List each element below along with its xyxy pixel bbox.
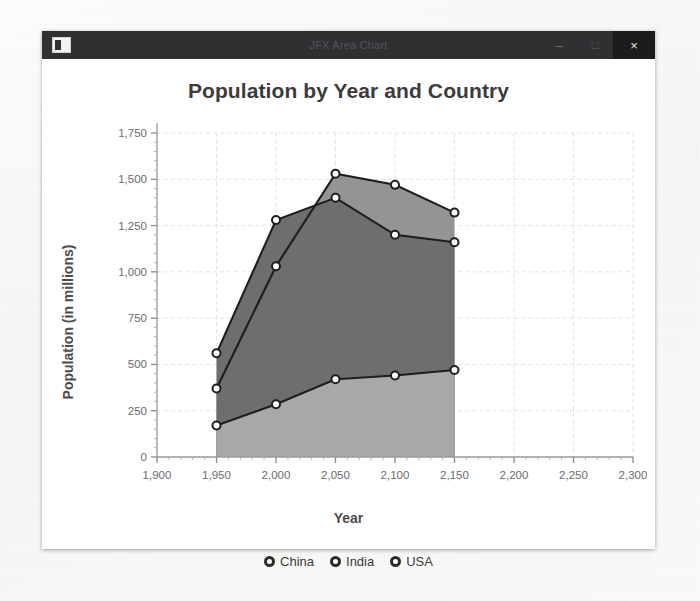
x-tick-label: 2,050 [321,469,350,481]
legend-item-usa[interactable]: USA [390,554,433,569]
data-point-india[interactable] [272,262,280,270]
data-point-china[interactable] [213,349,221,357]
y-tick-label: 750 [128,312,147,324]
x-tick-label: 2,000 [262,469,291,481]
data-point-usa[interactable] [272,400,280,408]
data-point-china[interactable] [451,238,459,246]
maximize-button[interactable]: □ [577,31,613,59]
data-point-india[interactable] [451,209,459,217]
app-window-icon [52,37,71,53]
data-point-usa[interactable] [213,422,221,430]
close-button[interactable]: × [613,31,655,59]
window-title-bar[interactable]: JFX Area Chart – □ × [42,31,655,59]
y-tick-label: 1,250 [118,220,147,232]
y-axis-title: Population (in millions) [60,245,76,400]
legend-marker-icon [330,556,341,567]
x-tick-label: 2,150 [440,469,469,481]
chart-legend: ChinaIndiaUSA [50,554,647,569]
x-tick-label: 2,100 [381,469,410,481]
x-tick-label: 1,900 [143,469,172,481]
data-point-usa[interactable] [451,366,459,374]
application-window: JFX Area Chart – □ × Population by Year … [42,31,655,549]
y-tick-label: 1,500 [118,173,147,185]
data-point-usa[interactable] [391,372,399,380]
x-axis-title: Year [50,510,647,526]
chart-canvas: Population by Year and Country Populatio… [42,59,655,549]
data-point-usa[interactable] [332,375,340,383]
y-tick-label: 0 [141,451,147,463]
plot-area-wrapper: Population (in millions) Year 0250500750… [50,67,647,541]
legend-marker-icon [264,556,275,567]
x-tick-label: 2,200 [500,469,529,481]
legend-item-india[interactable]: India [330,554,374,569]
legend-label: China [280,554,314,569]
legend-item-china[interactable]: China [264,554,314,569]
window-controls: – □ × [541,31,655,59]
minimize-button[interactable]: – [541,31,577,59]
x-tick-label: 1,950 [202,469,231,481]
legend-marker-icon [390,556,401,567]
area-chart-plot: 02505007501,0001,2501,5001,7501,9001,950… [50,67,647,541]
y-tick-label: 250 [128,405,147,417]
data-point-china[interactable] [272,216,280,224]
y-tick-label: 500 [128,358,147,370]
y-tick-label: 1,000 [118,266,147,278]
data-point-china[interactable] [391,231,399,239]
data-point-india[interactable] [332,170,340,178]
legend-label: USA [406,554,433,569]
x-tick-label: 2,250 [559,469,588,481]
data-point-india[interactable] [391,181,399,189]
data-point-india[interactable] [213,384,221,392]
data-point-china[interactable] [332,194,340,202]
y-tick-label: 1,750 [118,127,147,139]
x-tick-label: 2,300 [619,469,647,481]
legend-label: India [346,554,374,569]
